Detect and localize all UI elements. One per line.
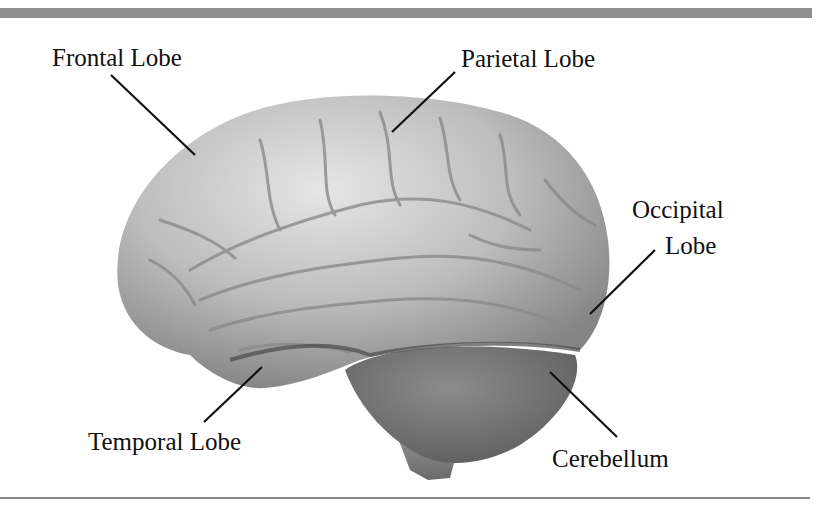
label-temporal-lobe: Temporal Lobe — [88, 428, 241, 456]
frontal-leader — [111, 75, 195, 155]
bottom-rule — [0, 497, 810, 499]
label-parietal-lobe: Parietal Lobe — [461, 45, 595, 73]
label-cerebellum: Cerebellum — [552, 445, 669, 473]
label-frontal-lobe: Frontal Lobe — [52, 44, 182, 72]
label-occipital-lobe-line2: Lobe — [665, 232, 716, 260]
cerebellum-shape — [345, 347, 577, 463]
label-occipital-lobe-line1: Occipital — [632, 196, 724, 224]
